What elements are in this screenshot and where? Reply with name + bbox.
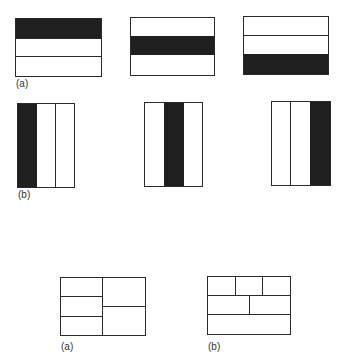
left-row-dividers — [61, 278, 103, 335]
filled-stripe-top — [16, 19, 101, 38]
stripe-divider — [290, 102, 291, 185]
horizontal-stripe-panel-1 — [15, 18, 102, 77]
top-row-dividers — [208, 277, 290, 296]
cell-divider — [235, 277, 236, 296]
vertical-stripe-panel-1 — [17, 103, 75, 188]
grid-layout-b — [207, 276, 291, 335]
cell-divider — [262, 277, 263, 296]
stripe-divider — [16, 38, 101, 39]
horizontal-stripe-panel-3 — [243, 16, 329, 75]
filled-stripe-middle — [164, 103, 184, 186]
cell-divider — [249, 296, 250, 315]
filled-stripe-bottom — [244, 54, 328, 74]
row-b-label: (b) — [18, 189, 30, 200]
horizontal-stripe-panel-2 — [130, 17, 215, 76]
filled-stripe-right — [310, 102, 330, 185]
vertical-stripe-panel-3 — [271, 101, 331, 186]
row-a-label: (a) — [16, 78, 28, 89]
filled-stripe-middle — [131, 36, 214, 55]
bottom-b-label: (b) — [208, 341, 220, 352]
right-row-dividers — [103, 278, 145, 335]
stripe-divider — [244, 35, 328, 36]
row-divider — [61, 296, 103, 297]
stripe-divider — [16, 56, 101, 57]
row-divider — [103, 306, 145, 307]
vertical-stripe-panel-2 — [144, 102, 203, 187]
grid-layout-a — [60, 277, 146, 336]
stripe-divider — [55, 104, 56, 187]
row-divider — [61, 316, 103, 317]
middle-row-dividers — [208, 296, 290, 315]
bottom-a-label: (a) — [61, 341, 73, 352]
filled-stripe-left — [18, 104, 37, 187]
